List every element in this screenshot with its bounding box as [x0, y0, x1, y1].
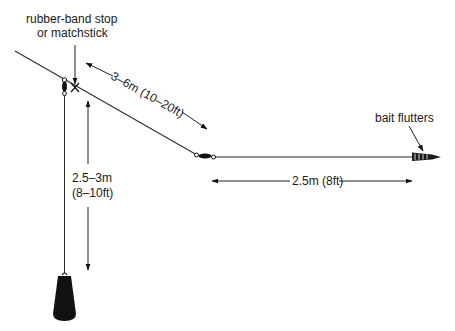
bait-icon [412, 153, 441, 162]
sinker-icon [53, 273, 76, 321]
fishing-rig-diagram: 2.5–3m (8–10ft) 3–6m (10–20ft) bait flut… [0, 0, 455, 331]
main-length-arrow-start [86, 63, 113, 76]
bait-label: bait flutters [375, 111, 434, 125]
drop-length-label-1: 2.5–3m [72, 171, 112, 185]
stop-label-2: or matchstick [37, 26, 109, 40]
sliding-swivel-icon [62, 78, 67, 96]
main-length-arrow-end [182, 112, 207, 129]
lower-swivel-icon [195, 153, 216, 159]
stop-label-1: rubber-band stop [26, 12, 118, 26]
drop-length-label-2: (8–10ft) [72, 186, 113, 200]
leader-length-label: 2.5m (8ft) [292, 174, 343, 188]
main-length-label: 3–6m (10–20ft) [109, 69, 187, 121]
bait-label-pointer [409, 126, 423, 151]
